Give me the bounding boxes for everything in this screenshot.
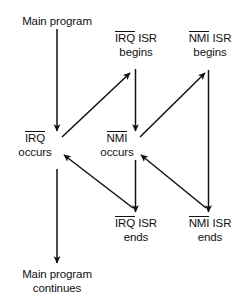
interrupt-flow-diagram: Main program IRQ ISR begins NMI ISR begi… [0,0,252,305]
node-irq-isr-begins-suffix: ISR [135,32,157,44]
node-nmi-isr-begins: NMI ISR begins [170,31,250,59]
node-nmi-occurs-line1: NMI [88,131,146,145]
node-irq-occurs-line1: IRQ [6,131,64,145]
edge-irq-occurs-to-irq-isr-begins [62,73,130,137]
edge-nmi-occurs-to-nmi-isr-begins [140,73,205,137]
node-nmi-occurs: NMI occurs [88,131,146,159]
node-irq-isr-ends: IRQ ISR ends [96,216,176,244]
node-nmi-isr-begins-overline: NMI [189,31,210,45]
node-irq-isr-ends-line2: ends [96,230,176,244]
node-irq-isr-ends-suffix: ISR [135,217,157,229]
node-nmi-isr-ends-overline: NMI [189,216,210,230]
node-main-program-continues-line2: continues [4,281,110,295]
node-irq-isr-begins-line1: IRQ ISR [96,31,176,45]
node-nmi-isr-ends-line1: NMI ISR [170,216,250,230]
node-irq-isr-begins: IRQ ISR begins [96,31,176,59]
node-nmi-isr-ends: NMI ISR ends [170,216,250,244]
edge-nmi-isr-ends-to-nmi-occurs [141,155,206,208]
edge-irq-isr-ends-to-irq-occurs [64,155,133,208]
node-nmi-isr-ends-suffix: ISR [209,217,231,229]
node-nmi-isr-begins-suffix: ISR [209,32,231,44]
node-irq-occurs-overline: IRQ [25,131,45,145]
node-irq-isr-begins-overline: IRQ [115,31,135,45]
node-irq-isr-begins-line2: begins [96,45,176,59]
node-nmi-occurs-overline: NMI [107,131,128,145]
node-irq-isr-ends-overline: IRQ [115,216,135,230]
node-main-program-continues-line1: Main program [4,267,110,281]
node-main-program: Main program [4,14,110,28]
node-main-program-label: Main program [4,14,110,28]
node-main-program-continues: Main program continues [4,267,110,295]
node-irq-occurs: IRQ occurs [6,131,64,159]
node-irq-occurs-line2: occurs [6,145,64,159]
node-irq-isr-ends-line1: IRQ ISR [96,216,176,230]
node-nmi-occurs-line2: occurs [88,145,146,159]
node-nmi-isr-begins-line1: NMI ISR [170,31,250,45]
node-nmi-isr-begins-line2: begins [170,45,250,59]
node-nmi-isr-ends-line2: ends [170,230,250,244]
